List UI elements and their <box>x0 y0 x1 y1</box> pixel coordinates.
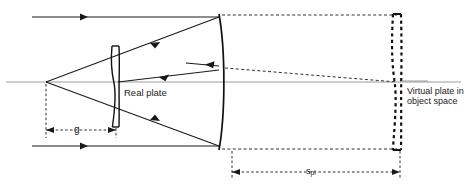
incoming-ray-top <box>32 14 219 21</box>
real-plate-label: Real plate <box>124 88 167 99</box>
dimension-g <box>46 84 116 138</box>
reflected-ray-axial <box>118 70 219 82</box>
reflected-ray-short <box>186 61 219 68</box>
optical-ray-diagram <box>0 0 467 192</box>
reflected-ray-upper <box>46 17 219 82</box>
dimension-spl-label: spl <box>306 166 316 177</box>
real-plate <box>111 46 119 127</box>
dimension-spl <box>232 151 400 180</box>
dimension-g-label: g <box>74 124 80 136</box>
incoming-ray-bottom <box>32 143 219 150</box>
figure-canvas: Real plate Virtual plate in object space… <box>0 0 467 192</box>
dimension-spl-subscript: pl <box>311 169 316 176</box>
virtual-plate-label: Virtual plate in object space <box>407 86 465 107</box>
